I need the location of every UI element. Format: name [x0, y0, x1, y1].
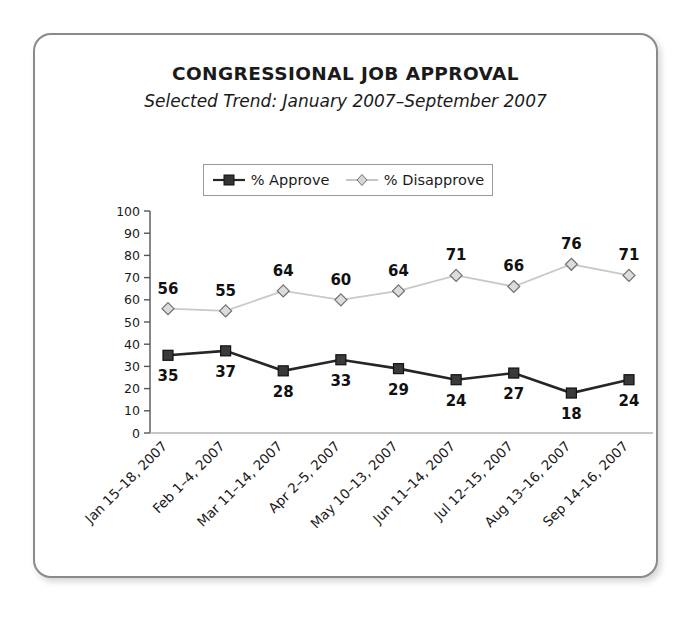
data-point-marker[interactable]: [394, 364, 404, 374]
y-tick-label: 60: [124, 292, 140, 307]
data-point-marker[interactable]: [450, 269, 462, 281]
x-axis-labels: Jan 15–18, 2007Feb 1–4, 2007Mar 11–14, 2…: [81, 438, 631, 532]
data-point-label: 29: [388, 381, 409, 399]
data-point-label: 64: [273, 262, 294, 280]
data-point-label: 55: [215, 282, 236, 300]
plot-area: 1009080706050403020100 35372833292427182…: [35, 35, 660, 580]
data-point-marker[interactable]: [623, 269, 635, 281]
y-tick-label: 0: [132, 426, 140, 441]
data-point-label: 24: [619, 392, 640, 410]
data-point-marker[interactable]: [565, 258, 577, 270]
data-point-marker[interactable]: [624, 375, 634, 385]
data-point-label: 71: [619, 246, 640, 264]
y-tick-label: 40: [124, 337, 140, 352]
data-point-marker[interactable]: [508, 280, 520, 292]
data-point-label: 35: [158, 367, 179, 385]
data-point-label: 66: [503, 257, 524, 275]
y-axis: 1009080706050403020100: [116, 204, 150, 441]
data-point-marker[interactable]: [163, 350, 173, 360]
data-point-marker[interactable]: [566, 388, 576, 398]
data-point-label: 37: [215, 363, 236, 381]
data-point-label: 64: [388, 262, 409, 280]
data-point-marker[interactable]: [277, 285, 289, 297]
y-tick-label: 20: [124, 381, 140, 396]
y-tick-label: 30: [124, 359, 140, 374]
y-tick-label: 100: [116, 204, 140, 219]
data-point-label: 24: [446, 392, 467, 410]
data-point-marker[interactable]: [451, 375, 461, 385]
data-point-label: 60: [330, 271, 351, 289]
data-point-marker[interactable]: [509, 368, 519, 378]
data-point-marker[interactable]: [335, 294, 347, 306]
data-point-label: 56: [158, 280, 179, 298]
data-point-label: 28: [273, 383, 294, 401]
data-point-label: 18: [561, 405, 582, 423]
y-tick-label: 50: [124, 315, 140, 330]
data-point-label: 71: [446, 246, 467, 264]
y-tick-label: 70: [124, 270, 140, 285]
data-point-label: 76: [561, 235, 582, 253]
data-point-label: 33: [330, 372, 351, 390]
data-point-marker[interactable]: [162, 303, 174, 315]
y-tick-label: 80: [124, 248, 140, 263]
data-point-marker[interactable]: [393, 285, 405, 297]
line-chart-svg: 1009080706050403020100 35372833292427182…: [35, 35, 660, 580]
data-point-marker[interactable]: [278, 366, 288, 376]
y-tick-label: 90: [124, 226, 140, 241]
data-point-label: 27: [503, 385, 524, 403]
data-point-marker[interactable]: [221, 346, 231, 356]
data-point-marker[interactable]: [336, 355, 346, 365]
y-tick-label: 10: [124, 403, 140, 418]
data-point-marker[interactable]: [220, 305, 232, 317]
chart-card: CONGRESSIONAL JOB APPROVAL Selected Tren…: [33, 33, 658, 578]
